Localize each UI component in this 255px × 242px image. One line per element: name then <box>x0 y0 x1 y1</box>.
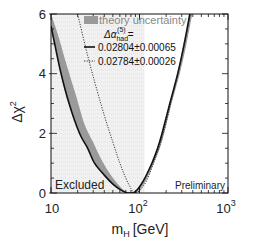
legend-band-swatch <box>84 16 98 24</box>
y-tick-label-2: 2 <box>39 126 46 141</box>
y-tick-label-0: 0 <box>39 186 46 201</box>
excluded-annotation: Excluded <box>55 178 104 192</box>
preliminary-annotation: Preliminary <box>175 180 225 191</box>
y-tick-label-4: 4 <box>39 66 46 81</box>
y-axis-label: Δχ2 <box>8 101 25 123</box>
svg-text:Δχ2: Δχ2 <box>8 101 25 123</box>
legend-dotted-label: 0.02784±0.00026 <box>98 56 176 67</box>
legend-solid-label: 0.02804±0.00065 <box>98 42 176 53</box>
x-tick-label-1000: 103 <box>216 198 235 216</box>
x-axis-label: mH[GeV] <box>112 221 169 239</box>
y-tick-label-6: 6 <box>39 7 46 22</box>
x-tick-label-100: 102 <box>128 198 147 216</box>
x-tick-label-10: 10 <box>45 201 59 216</box>
chart: 6 4 2 0 Δχ2 10 102 103 mH[GeV] Excluded … <box>0 0 255 242</box>
legend-band-label: theory uncertainty <box>99 14 187 26</box>
